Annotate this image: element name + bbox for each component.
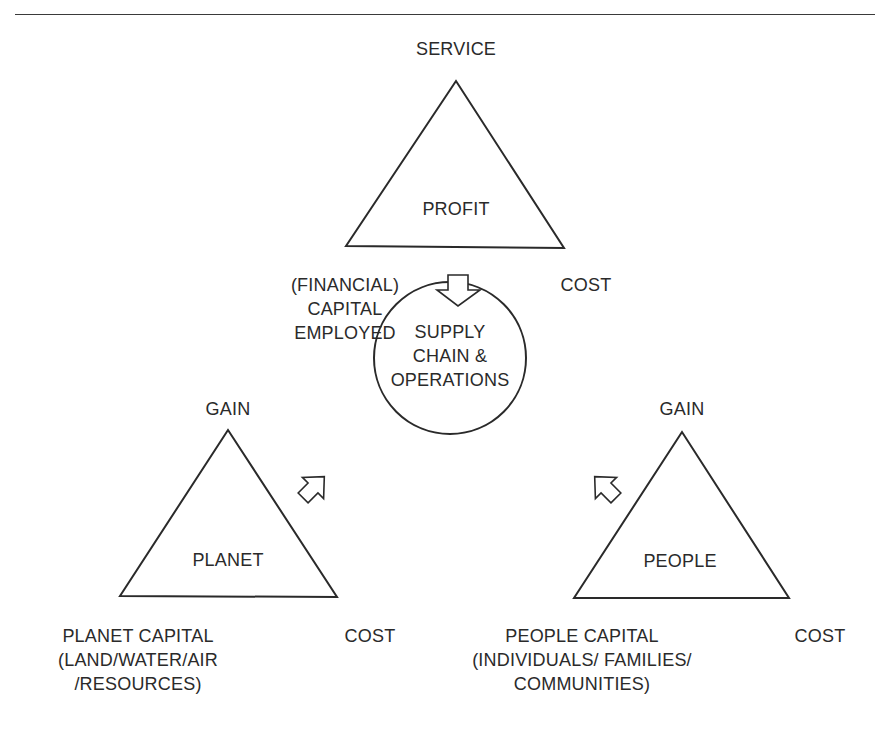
planet-cost-label: COST (335, 624, 405, 648)
people-label: PEOPLE (630, 549, 730, 573)
planet-gain-label: GAIN (188, 397, 268, 421)
planet-capital-label: PLANET CAPITAL (LAND/WATER/AIR /RESOURCE… (28, 624, 248, 696)
people-triangle (574, 432, 789, 598)
service-label: SERVICE (406, 37, 506, 61)
people-capital-label: PEOPLE CAPITAL (INDIVIDUALS/ FAMILIES/ C… (452, 624, 712, 696)
people-cost-label: COST (785, 624, 855, 648)
profit-label: PROFIT (406, 197, 506, 221)
up-left-arrow-icon (584, 466, 626, 508)
up-right-arrow-icon (292, 466, 334, 508)
down-arrow-icon (437, 275, 480, 306)
profit-cost-label: COST (551, 273, 621, 297)
people-gain-label: GAIN (642, 397, 722, 421)
planet-label: PLANET (178, 548, 278, 572)
supply-chain-label: SUPPLY CHAIN & OPERATIONS (375, 320, 525, 392)
profit-triangle (346, 81, 564, 248)
